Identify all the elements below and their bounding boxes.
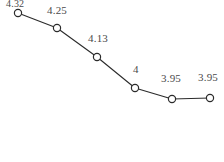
chart-container: 4.324.254.1343.953.95 (0, 0, 224, 162)
data-point-marker[interactable] (206, 94, 213, 101)
line-chart-plot (0, 0, 224, 162)
data-point-label: 4.32 (6, 0, 24, 9)
data-point-label: 3.95 (161, 73, 181, 84)
data-point-marker[interactable] (131, 84, 138, 91)
series-line (18, 13, 210, 99)
data-point-label: 3.95 (198, 72, 218, 83)
data-point-marker[interactable] (53, 24, 60, 31)
data-point-marker[interactable] (168, 95, 175, 102)
data-point-marker[interactable] (14, 9, 21, 16)
data-point-label: 4.25 (47, 5, 67, 16)
data-point-label: 4.13 (88, 33, 108, 44)
data-point-marker[interactable] (93, 53, 100, 60)
data-point-label: 4 (133, 64, 139, 75)
